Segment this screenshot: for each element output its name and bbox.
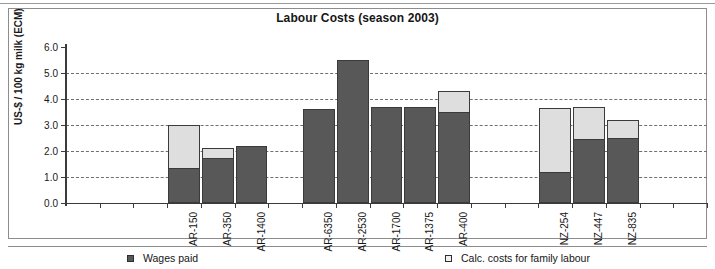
bar-segment-wages-paid xyxy=(540,172,570,202)
x-axis-tick xyxy=(606,203,607,208)
x-axis-tick xyxy=(572,203,573,208)
x-axis-tick xyxy=(336,203,337,208)
x-axis-tick xyxy=(235,203,236,208)
chart-screenshot: Labour Costs (season 2003) US-$ / 100 kg… xyxy=(0,0,715,269)
x-axis-tick xyxy=(538,203,539,208)
x-axis-tick-label: AR-1375 xyxy=(424,212,435,251)
bar xyxy=(337,60,369,203)
x-axis-tick-label: NZ-835 xyxy=(627,212,638,245)
bar xyxy=(371,107,403,203)
x-axis-tick-label: NZ-447 xyxy=(593,212,604,245)
chart-title: Labour Costs (season 2003) xyxy=(0,11,715,25)
bar-slot xyxy=(201,47,235,203)
bar-segment-wages-paid xyxy=(405,108,435,202)
x-axis-tick xyxy=(471,203,472,208)
bar-slot xyxy=(640,47,674,203)
bar xyxy=(202,148,234,203)
x-axis-tick xyxy=(133,203,134,208)
bar-slot xyxy=(302,47,336,203)
bar xyxy=(168,125,200,203)
bar-slot xyxy=(167,47,201,203)
bar xyxy=(607,120,639,203)
bar-slot xyxy=(471,47,505,203)
bar-segment-wages-paid xyxy=(574,139,604,202)
y-axis-tick-label: 0.0 xyxy=(44,198,58,209)
y-axis-tick xyxy=(61,203,67,204)
legend-swatch-icon xyxy=(445,255,452,262)
bar-slot xyxy=(538,47,572,203)
bar-slot xyxy=(437,47,471,203)
bar-slot xyxy=(606,47,640,203)
x-axis-tick-label: AR-2530 xyxy=(357,212,368,251)
bar xyxy=(404,107,436,203)
bar-segment-wages-paid xyxy=(372,108,402,202)
bar-slot xyxy=(370,47,404,203)
bar-segment-wages-paid xyxy=(169,168,199,202)
bar xyxy=(438,91,470,203)
bar-segment-family-labour xyxy=(203,149,233,157)
legend-item-family-labour: Calc. costs for family labour xyxy=(445,252,590,264)
legend-label: Wages paid xyxy=(143,252,198,264)
bar-slot xyxy=(268,47,302,203)
y-axis-tick-label: 4.0 xyxy=(44,94,58,105)
x-axis-tick-label: AR-150 xyxy=(188,212,199,246)
bar xyxy=(539,108,571,203)
plot-area: 6.05.04.03.02.01.00.0 xyxy=(66,47,707,203)
bar-slot xyxy=(673,47,707,203)
y-axis-tick-label: 1.0 xyxy=(44,172,58,183)
bar xyxy=(236,146,268,203)
x-axis-tick xyxy=(437,203,438,208)
x-axis-tick xyxy=(100,203,101,208)
bar-segment-family-labour xyxy=(540,109,570,172)
x-axis-tick xyxy=(707,203,708,208)
y-axis-label: US-$ / 100 kg milk (ECM) xyxy=(13,8,24,125)
bar-slot xyxy=(133,47,167,203)
legend-item-wages-paid: Wages paid xyxy=(127,252,198,264)
bar-slot xyxy=(403,47,437,203)
x-axis-tick xyxy=(302,203,303,208)
bar-segment-wages-paid xyxy=(203,158,233,203)
bar xyxy=(573,107,605,203)
x-axis-line xyxy=(65,203,707,204)
bar-slot xyxy=(572,47,606,203)
bar-slot xyxy=(336,47,370,203)
bar-segment-family-labour xyxy=(574,108,604,140)
y-axis-tick-label: 5.0 xyxy=(44,68,58,79)
page-top-edge xyxy=(0,3,715,4)
bar-segment-wages-paid xyxy=(237,147,267,202)
bar-segment-family-labour xyxy=(439,92,469,112)
bar-slot xyxy=(66,47,100,203)
bar xyxy=(303,109,335,203)
y-axis-tick-label: 6.0 xyxy=(44,42,58,53)
bar-segment-wages-paid xyxy=(338,61,368,202)
bar-segment-family-labour xyxy=(169,126,199,168)
bar-segment-wages-paid xyxy=(608,138,638,202)
x-axis-tick xyxy=(403,203,404,208)
bar-segment-wages-paid xyxy=(304,110,334,202)
x-axis-tick xyxy=(505,203,506,208)
x-axis-tick xyxy=(201,203,202,208)
x-axis-tick-label: NZ-254 xyxy=(559,212,570,245)
bar-segment-wages-paid xyxy=(439,112,469,202)
x-axis-tick-label: AR-400 xyxy=(458,212,469,246)
legend-swatch-icon xyxy=(127,255,134,262)
y-axis-tick-label: 2.0 xyxy=(44,146,58,157)
x-axis-tick-label: AR-1400 xyxy=(256,212,267,251)
bar-slot xyxy=(235,47,269,203)
legend-label: Calc. costs for family labour xyxy=(461,252,590,264)
x-axis-tick xyxy=(640,203,641,208)
x-axis-tick xyxy=(167,203,168,208)
y-axis-tick-label: 3.0 xyxy=(44,120,58,131)
x-axis-tick-label: AR-6350 xyxy=(323,212,334,251)
bar-slot xyxy=(100,47,134,203)
bar-segment-family-labour xyxy=(608,121,638,138)
x-axis-tick xyxy=(370,203,371,208)
x-axis-tick-label: AR-1700 xyxy=(391,212,402,251)
bar-slot xyxy=(505,47,539,203)
x-axis-tick-label: AR-350 xyxy=(222,212,233,246)
x-axis-tick xyxy=(673,203,674,208)
x-axis-tick xyxy=(268,203,269,208)
